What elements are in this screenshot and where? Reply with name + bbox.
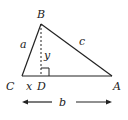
vertex-a-label: A (112, 80, 121, 93)
side-b-label: b (59, 96, 66, 109)
side-a-label: a (20, 38, 27, 51)
left-arrow-icon (22, 100, 52, 105)
vertex-b-label: B (36, 8, 45, 21)
altitude-y-label: y (43, 49, 51, 62)
side-c-line (41, 24, 112, 76)
vertex-d-label: D (36, 80, 46, 93)
triangle-diagram: B C D A a c x y b (0, 0, 128, 120)
segment-x-label: x (26, 80, 33, 93)
right-angle-marker (41, 68, 49, 76)
vertex-c-label: C (6, 80, 15, 93)
right-arrow-icon (76, 100, 112, 105)
side-c-label: c (79, 35, 85, 48)
